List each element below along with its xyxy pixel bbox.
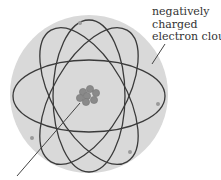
label-line: negatively: [152, 6, 221, 19]
electron-cloud-label: negatively charged electron cloud: [152, 6, 221, 44]
electron: [128, 150, 132, 154]
label-line: electron cloud: [152, 31, 221, 44]
electron: [78, 21, 82, 25]
electron: [156, 102, 160, 106]
electron: [30, 136, 34, 140]
